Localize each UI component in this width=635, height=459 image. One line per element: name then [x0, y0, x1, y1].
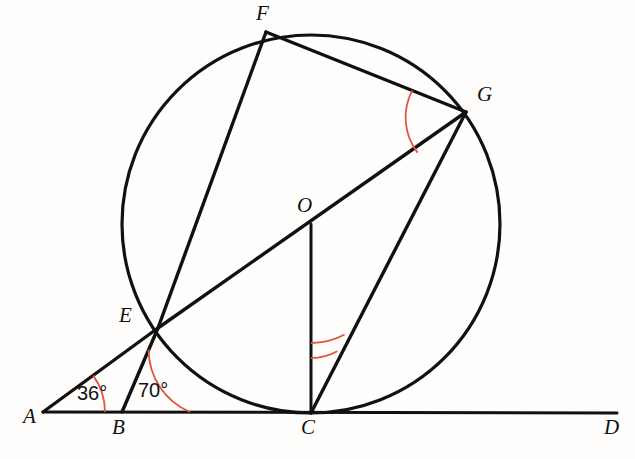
point-label-F: F — [256, 3, 269, 24]
point-label-O: O — [297, 195, 312, 216]
angle-arc-G — [406, 90, 418, 152]
point-label-A: A — [23, 406, 36, 427]
geometry-figure: A B C D E F G O 36° 70° — [0, 0, 635, 459]
angle-value-B: 70° — [138, 380, 168, 400]
chord-EF — [158, 32, 266, 328]
point-label-D: D — [604, 417, 619, 438]
chord-GC — [311, 112, 466, 413]
angle-value-A: 36° — [77, 383, 107, 403]
point-label-E: E — [119, 305, 132, 326]
point-label-C: C — [301, 417, 315, 438]
angle-arc-C-outer — [311, 335, 345, 344]
point-label-G: G — [477, 84, 492, 105]
point-label-B: B — [112, 417, 125, 438]
line-AD — [43, 412, 617, 413]
angle-arc-C-inner — [311, 351, 337, 358]
